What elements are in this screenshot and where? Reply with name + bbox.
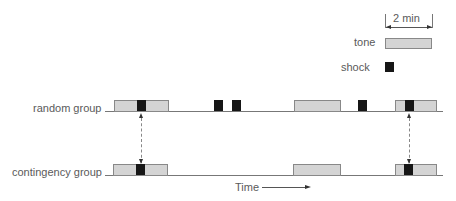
tone-block bbox=[293, 164, 341, 176]
dashed-connector bbox=[141, 118, 142, 163]
shock-legend-label: shock bbox=[341, 61, 370, 73]
shock-block bbox=[404, 164, 413, 175]
shock-block bbox=[232, 100, 241, 111]
shock-block bbox=[137, 100, 146, 111]
duration-label: 2 min bbox=[393, 12, 420, 24]
bracket-right-tick bbox=[432, 14, 433, 28]
shock-block bbox=[214, 100, 223, 111]
shock-block bbox=[358, 100, 367, 111]
tone-block bbox=[395, 164, 437, 176]
bracket-left-arrow-icon bbox=[386, 25, 391, 29]
dashed-connector bbox=[409, 118, 410, 163]
random-group-label: random group bbox=[33, 102, 102, 114]
time-label: Time bbox=[235, 181, 259, 193]
shock-block bbox=[405, 100, 414, 111]
tone-legend-label: tone bbox=[354, 36, 375, 48]
bracket-right-arrow-icon bbox=[427, 25, 432, 29]
shock-block bbox=[136, 164, 145, 175]
duration-bracket bbox=[386, 27, 432, 28]
time-arrow-line bbox=[262, 187, 305, 188]
time-arrow-icon bbox=[305, 185, 311, 189]
tone-block bbox=[395, 100, 437, 112]
tone-legend-swatch bbox=[385, 38, 432, 49]
contingency-group-label: contingency group bbox=[12, 166, 102, 178]
tone-block bbox=[294, 100, 341, 112]
shock-legend-swatch bbox=[385, 62, 394, 72]
